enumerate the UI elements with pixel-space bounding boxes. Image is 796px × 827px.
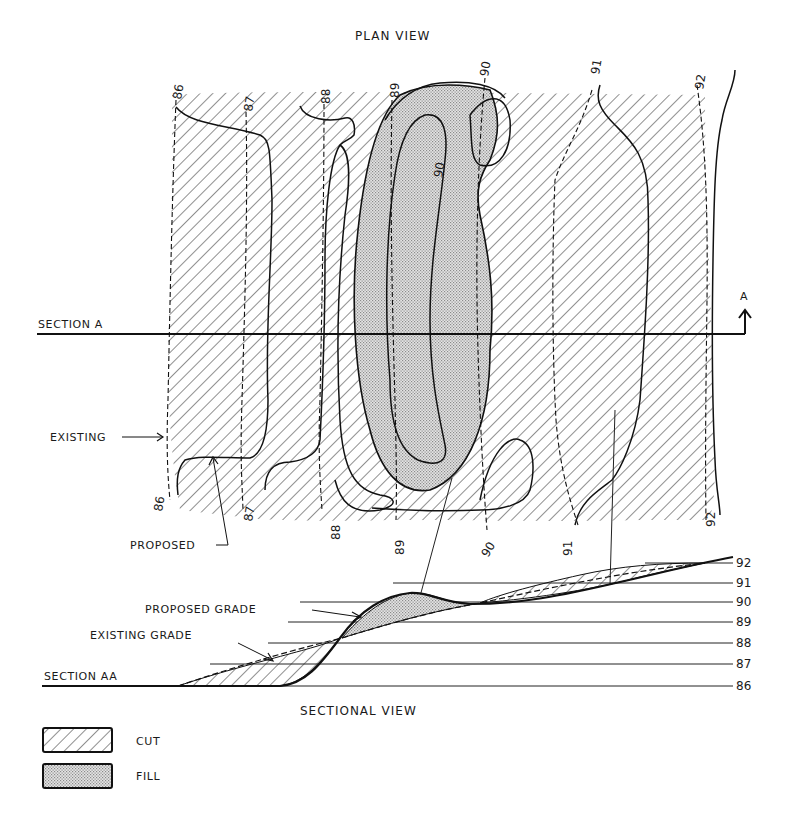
grading-diagram: PLAN VIEW <box>0 0 796 827</box>
svg-text:86: 86 <box>170 83 186 100</box>
existing-grade-arrow-icon <box>238 643 273 661</box>
proposed-callout: PROPOSED <box>130 539 195 552</box>
existing-arrow-icon <box>122 433 163 441</box>
svg-text:92: 92 <box>704 512 718 527</box>
fill-swatch <box>43 764 112 788</box>
svg-text:91: 91 <box>588 58 604 75</box>
plan-view-title: PLAN VIEW <box>355 29 430 43</box>
svg-text:89: 89 <box>393 540 407 555</box>
existing-grade-callout: EXISTING GRADE <box>90 629 192 642</box>
svg-text:88: 88 <box>319 89 333 104</box>
legend-item-cut: CUT <box>43 728 160 752</box>
proposed-grade-arrow-icon <box>312 610 361 621</box>
svg-text:90: 90 <box>736 595 751 609</box>
proposed-grade-callout: PROPOSED GRADE <box>145 603 256 616</box>
sectional-view: 92 91 90 89 88 87 86 PROPOSED GRADE EXIS… <box>42 556 751 718</box>
svg-text:91: 91 <box>561 541 575 556</box>
legend-item-fill: FILL <box>43 764 160 788</box>
svg-text:89: 89 <box>736 615 751 629</box>
svg-text:92: 92 <box>692 73 708 90</box>
svg-text:89: 89 <box>388 83 402 98</box>
fill-area <box>354 85 497 491</box>
section-fill <box>342 593 475 638</box>
elevation-labels: 92 91 90 89 88 87 86 <box>736 556 751 693</box>
section-a-marker: A <box>740 290 748 303</box>
svg-text:87: 87 <box>241 95 257 112</box>
sectional-view-title: SECTIONAL VIEW <box>300 704 417 718</box>
svg-text:88: 88 <box>329 525 343 540</box>
inner-contour-label: 90 <box>431 161 447 178</box>
svg-text:87: 87 <box>241 505 257 522</box>
plan-view: PLAN VIEW <box>37 29 751 615</box>
svg-text:91: 91 <box>736 576 751 590</box>
svg-text:90: 90 <box>478 539 498 559</box>
svg-text:90: 90 <box>477 60 493 77</box>
section-a-label: SECTION A <box>38 318 103 331</box>
section-cut-left <box>178 638 340 686</box>
svg-text:92: 92 <box>736 556 751 570</box>
svg-text:86: 86 <box>151 495 167 512</box>
svg-text:86: 86 <box>736 679 751 693</box>
section-aa-label: SECTION AA <box>44 670 117 683</box>
svg-text:88: 88 <box>736 636 751 650</box>
cut-swatch <box>43 728 112 752</box>
legend-label-fill: FILL <box>136 770 160 783</box>
svg-text:87: 87 <box>736 657 751 671</box>
existing-callout: EXISTING <box>50 431 106 444</box>
legend: CUT FILL <box>43 728 160 788</box>
legend-label-cut: CUT <box>136 735 160 748</box>
